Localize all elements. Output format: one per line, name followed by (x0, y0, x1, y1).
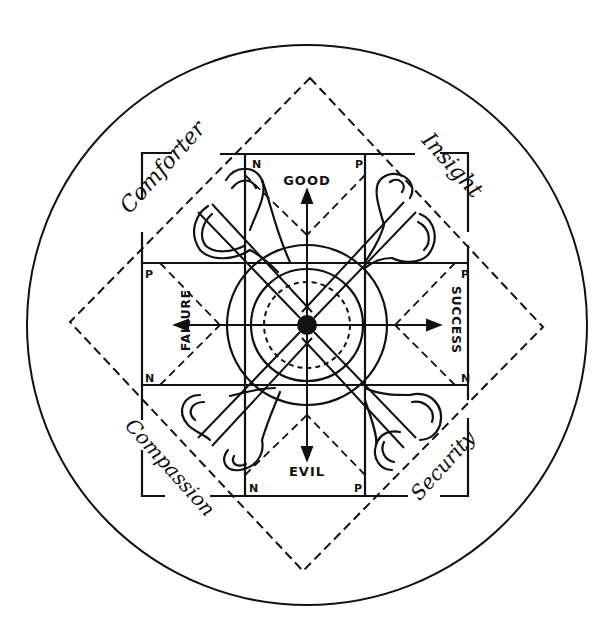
marker-bottom-left: N (249, 482, 258, 495)
arrow-up-icon (302, 190, 312, 203)
horn-bottom-left (182, 388, 280, 470)
arrow-down-icon (302, 447, 312, 460)
label-failure: FAILURE (179, 289, 193, 351)
label-evil: EVIL (289, 464, 325, 479)
marker-left-bottom: N (145, 372, 154, 385)
label-comforter: Comforter (115, 115, 212, 218)
marker-left-top: P (145, 268, 153, 281)
marker-bottom-right: P (354, 482, 362, 495)
horn-bottom-right (365, 388, 441, 470)
marker-right-top: P (461, 268, 469, 281)
marker-right-bottom: N (461, 372, 470, 385)
marker-top-right: P (355, 158, 363, 171)
label-security: Security (405, 425, 480, 505)
marker-top-left: N (252, 158, 261, 171)
arrow-right-icon (427, 320, 440, 330)
compass-diagram: GOOD EVIL FAILURE SUCCESS N P P N P N N … (0, 0, 615, 634)
label-success: SUCCESS (449, 286, 463, 354)
label-good: GOOD (283, 173, 331, 188)
label-insight: Insight (416, 127, 488, 203)
